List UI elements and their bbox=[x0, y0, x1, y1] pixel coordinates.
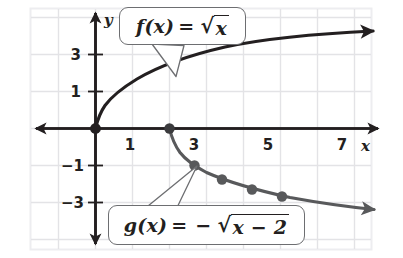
callout-f-label: f(x) = √ x bbox=[119, 7, 246, 45]
formula-g-sign: − bbox=[195, 214, 211, 236]
formula-f-radicand: x bbox=[214, 15, 229, 39]
formula-g: g(x) = − √ x − 2 bbox=[124, 213, 289, 238]
formula-g-equals: = bbox=[171, 214, 187, 236]
radical-sign-icon: √ bbox=[200, 15, 214, 40]
formula-f: f(x) = √ x bbox=[136, 14, 229, 39]
y-axis-label: y bbox=[103, 11, 114, 29]
radical-f: √ x bbox=[200, 14, 229, 39]
x-tick-label-1: 1 bbox=[125, 136, 135, 154]
y-tick-label-3: 3 bbox=[71, 46, 81, 64]
point-marker bbox=[247, 184, 257, 194]
radical-g: √ x − 2 bbox=[217, 213, 289, 238]
y-tick-label-neg3: −3 bbox=[61, 194, 84, 212]
callout-g-label: g(x) = − √ x − 2 bbox=[108, 205, 305, 245]
x-axis-label: x bbox=[360, 137, 371, 155]
y-tick-label-1: 1 bbox=[71, 83, 81, 101]
x-tick-label-5: 5 bbox=[263, 136, 273, 154]
point-marker-origin bbox=[90, 123, 101, 134]
graph-figure: 1 3 5 7 3 1 −1 −3 y x f(x) bbox=[0, 0, 403, 258]
x-tick-label-3: 3 bbox=[189, 136, 199, 154]
x-tick-label-7: 7 bbox=[337, 136, 347, 154]
point-marker bbox=[277, 191, 287, 201]
formula-g-radicand: x − 2 bbox=[231, 214, 289, 238]
point-marker bbox=[164, 123, 174, 133]
formula-g-lhs: g(x) bbox=[124, 214, 167, 236]
y-tick-label-neg1: −1 bbox=[61, 157, 84, 175]
formula-f-equals: = bbox=[178, 15, 194, 37]
formula-f-lhs: f(x) bbox=[136, 15, 174, 37]
radical-sign-icon: √ bbox=[217, 214, 231, 239]
point-marker bbox=[217, 174, 227, 184]
